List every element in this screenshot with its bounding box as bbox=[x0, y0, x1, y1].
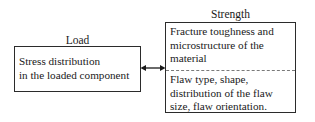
double-headed-arrow-icon bbox=[140, 60, 166, 76]
strength-cell-flaw: Flaw type, shape, distribution of the fl… bbox=[166, 71, 295, 117]
relationship-diagram: Load Stress distribution in the loaded c… bbox=[0, 0, 315, 122]
strength-cell-top-text: Fracture toughness and microstructure of… bbox=[166, 25, 295, 66]
strength-cell-bottom-text: Flaw type, shape, distribution of the fl… bbox=[166, 73, 295, 114]
load-caption: Load bbox=[14, 34, 141, 46]
strength-box: Fracture toughness and microstructure of… bbox=[165, 22, 296, 113]
load-box: Stress distribution in the loaded compon… bbox=[14, 46, 141, 92]
load-box-text: Stress distribution in the loaded compon… bbox=[15, 55, 140, 82]
strength-caption: Strength bbox=[165, 8, 296, 20]
strength-cell-fracture-toughness: Fracture toughness and microstructure of… bbox=[166, 23, 295, 71]
